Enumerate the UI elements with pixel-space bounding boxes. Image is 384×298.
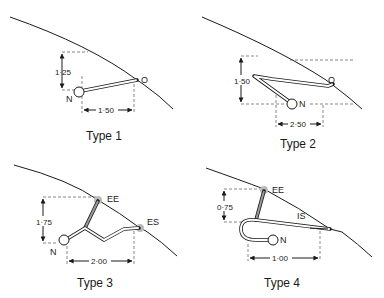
node-n xyxy=(287,99,297,109)
panel-type-4: 0·75 1·00 N EE IS Type 4 xyxy=(206,168,372,290)
node-label-n: N xyxy=(280,235,287,245)
node-label-is: IS xyxy=(297,211,306,221)
slope-curve xyxy=(206,168,372,257)
node-label-o: O xyxy=(141,75,148,85)
panel-type-1: 1·25 1·50 N O Type 1 xyxy=(10,17,173,143)
drain-pipe xyxy=(254,76,333,102)
node-label-es: ES xyxy=(147,217,159,227)
vertical-dimension-label: 1·25 xyxy=(55,68,72,77)
node-label-ee: EE xyxy=(272,185,284,195)
panel-title: Type 2 xyxy=(280,137,316,151)
panel-title: Type 3 xyxy=(77,276,113,290)
slope-curve xyxy=(10,17,173,109)
horizontal-dimension-label: 1·50 xyxy=(98,106,115,115)
panel-type-2: 1·50 2·50 N O Type 2 xyxy=(202,17,362,151)
slope-curve xyxy=(14,165,177,256)
panel-title: Type 1 xyxy=(86,129,122,143)
horizontal-dimension-label: 2·50 xyxy=(290,120,307,129)
node-label-ee: EE xyxy=(107,194,119,204)
vertical-dimension-label: 1·75 xyxy=(36,218,53,227)
panel-title: Type 4 xyxy=(264,276,300,290)
node-label-n: N xyxy=(66,94,73,104)
panel-type-3: 1·75 2·00 N EE ES Type 3 xyxy=(14,165,177,290)
node-n xyxy=(74,87,84,97)
node-n xyxy=(268,235,278,245)
node-n xyxy=(59,235,69,245)
node-label-n: N xyxy=(299,99,306,109)
vertical-dimension-label: 1·50 xyxy=(234,77,251,86)
diagram-canvas: 1·25 1·50 N O Type 1 1·50 2·50 N O Type … xyxy=(0,0,384,298)
node-label-o: O xyxy=(328,75,335,85)
horizontal-dimension-label: 2·00 xyxy=(91,257,108,266)
horizontal-dimension-label: 1·00 xyxy=(272,254,289,263)
node-label-n: N xyxy=(50,247,57,257)
vertical-dimension-label: 0·75 xyxy=(217,203,234,212)
